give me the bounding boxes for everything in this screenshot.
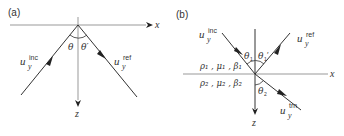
svg-text:1: 1 [250, 56, 253, 62]
z-axis-arrow-icon [75, 100, 81, 107]
reflected-wave-label: u y ref [114, 54, 131, 71]
reflected-wave-label: u y ref [297, 31, 314, 48]
angle-theta-2: θ 2 [258, 86, 267, 97]
panel-b-label: (b) [176, 9, 188, 20]
svg-text:u: u [280, 104, 286, 116]
reflected-ray [78, 25, 137, 97]
diagram-canvas: (a) x z θ θ′ u y inc u y ref [0, 0, 344, 136]
svg-text:inc: inc [29, 54, 38, 61]
z-axis-arrow-icon [252, 108, 258, 115]
svg-text:u: u [297, 32, 303, 44]
panel-a: (a) x z θ θ′ u y inc u y ref [8, 7, 160, 119]
svg-text:y: y [121, 62, 126, 71]
svg-text:y: y [287, 111, 292, 120]
lower-medium-properties: ρ₂ , μ₂ , β₂ [199, 78, 242, 88]
svg-text:y: y [304, 39, 309, 48]
transmitted-arrow-icon [277, 89, 287, 96]
lower-angle-arc [255, 81, 263, 85]
svg-text:y: y [206, 35, 211, 44]
svg-text:inc: inc [208, 27, 217, 34]
svg-text:u: u [20, 55, 26, 67]
x-axis-label: x [329, 68, 335, 79]
svg-text:trn: trn [289, 102, 297, 109]
svg-text:2: 2 [264, 91, 267, 97]
angle-theta: θ [68, 42, 74, 52]
angle-theta-prime: θ′ [81, 42, 88, 52]
incident-wave-label: u y inc [199, 27, 217, 44]
reflected-arrow-icon [97, 50, 106, 59]
z-axis-label: z [251, 117, 256, 128]
svg-text:u: u [199, 28, 205, 40]
svg-text:ref: ref [123, 54, 131, 61]
upper-medium-properties: ρ₁ , μ₁ , β₁ [199, 61, 242, 71]
x-axis-arrow-icon [146, 22, 153, 28]
z-axis-label: z [74, 108, 79, 119]
svg-text:y: y [27, 62, 32, 71]
svg-text:u: u [114, 55, 120, 67]
reflected-arrow-icon [274, 44, 281, 55]
angle-theta-1: θ 1 [244, 51, 253, 62]
panel-b: (b) x z θ 1 θ 1 ′ θ 2 [176, 9, 335, 128]
incident-wave-label: u y inc [20, 54, 38, 71]
incident-arrow-icon [46, 56, 53, 66]
x-axis-label: x [154, 19, 160, 30]
svg-text:ref: ref [306, 31, 314, 38]
transmitted-wave-label: u y trn [280, 102, 297, 120]
panel-a-label: (a) [8, 7, 20, 18]
